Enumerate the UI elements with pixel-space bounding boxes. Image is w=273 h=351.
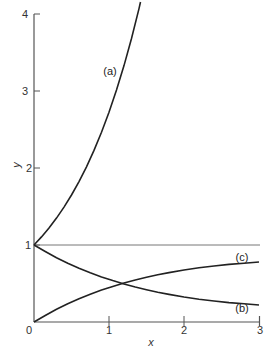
- curve-c: [34, 262, 259, 322]
- x-tick-label-3: 3: [257, 324, 263, 336]
- tick-labels: 4 3 2 1 0 1 2 3: [22, 8, 263, 336]
- y-tick-label-2: 2: [26, 162, 32, 174]
- y-tick-label-1: 1: [25, 239, 31, 251]
- curve-label-a: (a): [103, 65, 116, 77]
- y-axis-title: y: [10, 161, 22, 169]
- curve-label-b: (b): [235, 302, 248, 314]
- y-tick-label-3: 3: [22, 85, 28, 97]
- curve-label-c: (c): [236, 251, 249, 263]
- x-axis-title: x: [147, 336, 154, 348]
- exponential-curves-chart: 4 3 2 1 0 1 2 3 x y (a) (b) (c): [0, 0, 273, 351]
- origin-label: 0: [26, 324, 32, 336]
- axes: [34, 14, 260, 326]
- curve-a: [34, 2, 141, 245]
- x-tick-label-2: 2: [181, 324, 187, 336]
- curve-b: [34, 245, 259, 305]
- x-tick-label-1: 1: [106, 324, 112, 336]
- y-tick-label-4: 4: [22, 8, 28, 20]
